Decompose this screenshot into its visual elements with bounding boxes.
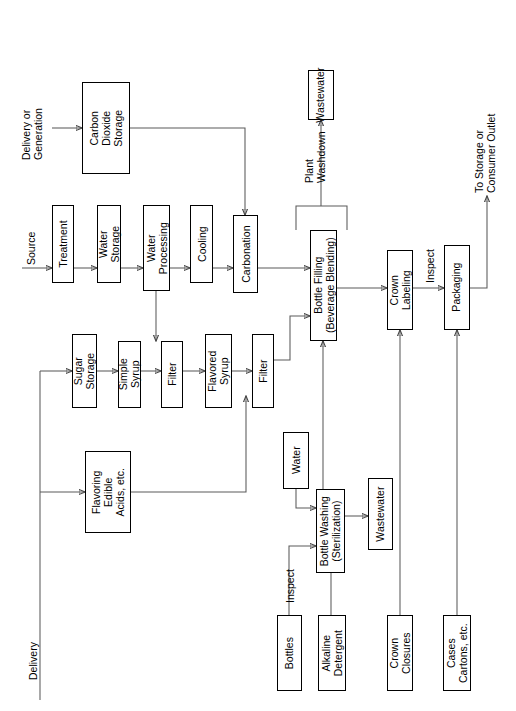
node-alkaline-detergent[interactable]: AlkalineDetergent (318, 615, 346, 691)
node-carbon-dioxide-storage[interactable]: CarbonDioxideStorage (82, 82, 130, 174)
node-label: WaterStorage (97, 226, 121, 263)
node-wastewater-bottle-washing[interactable]: Wastewater (368, 478, 393, 550)
node-label: Treatment (57, 220, 69, 267)
label-plant-washdown: PlantWashdown (303, 131, 327, 183)
node-packaging[interactable]: Packaging (444, 245, 470, 330)
node-bottle-washing[interactable]: Bottle Washing(Sterilization) (316, 489, 345, 573)
node-label: WaterProcessing (144, 222, 168, 274)
node-label: CarbonDioxideStorage (88, 110, 125, 147)
node-label: FlavoringEdibleAcids, etc. (90, 468, 127, 516)
node-label: Filter (166, 363, 178, 386)
node-sugar-storage[interactable]: SugarStorage (72, 334, 97, 408)
node-label: CasesCartons, etc. (445, 623, 469, 683)
node-cooling[interactable]: Cooling (190, 205, 213, 283)
node-water-processing[interactable]: WaterProcessing (143, 205, 170, 291)
node-label: Filter (257, 359, 269, 382)
node-label: CrownClosures (388, 632, 412, 673)
node-label: Carbonation (239, 225, 251, 282)
node-water-storage[interactable]: WaterStorage (97, 205, 121, 283)
node-label: Wastewater (315, 67, 327, 122)
label-source: Source (25, 232, 37, 265)
label-inspect-bottles: Inspect (284, 569, 296, 603)
label-to-storage-or-consumer-outlet: To Storage orConsumer Outlet (473, 114, 497, 193)
node-cases-cartons[interactable]: CasesCartons, etc. (443, 615, 471, 691)
node-simple-syrup[interactable]: SimpleSyrup (118, 341, 141, 408)
node-label: Packaging (451, 263, 463, 312)
node-treatment[interactable]: Treatment (52, 205, 74, 283)
node-wastewater-washdown[interactable]: Wastewater (308, 70, 334, 120)
node-water-for-washing[interactable]: Water (283, 432, 309, 489)
flowchart-canvas: CarbonDioxideStorage Treatment WaterStor… (0, 0, 516, 711)
node-label: FlavoredSyrup (206, 351, 230, 392)
node-label: Bottle Washing(Sterilization) (318, 496, 342, 566)
label-inspect-packaging: Inspect (424, 249, 436, 283)
node-bottle-filling[interactable]: Bottle Filling(Beverage Blending) (310, 230, 337, 341)
node-label: AlkalineDetergent (320, 630, 344, 676)
node-label: Bottles (283, 637, 295, 669)
node-label: CrownLabeling (388, 270, 412, 310)
node-filter-2[interactable]: Filter (252, 334, 274, 408)
node-bottles[interactable]: Bottles (277, 615, 302, 691)
node-label: SugarStorage (72, 353, 96, 390)
label-delivery: Delivery (27, 642, 39, 680)
label-delivery-or-generation: Delivery orGeneration (20, 108, 44, 160)
node-label: SimpleSyrup (117, 358, 141, 390)
node-label: Water (290, 447, 302, 475)
node-filter-1[interactable]: Filter (161, 341, 183, 408)
node-crown-closures[interactable]: CrownClosures (387, 615, 413, 691)
node-flavoring-edible-acids[interactable]: FlavoringEdibleAcids, etc. (85, 451, 131, 533)
node-label: Cooling (195, 226, 207, 262)
node-flavored-syrup[interactable]: FlavoredSyrup (205, 334, 232, 408)
node-crown-labeling[interactable]: CrownLabeling (387, 250, 413, 330)
node-carbonation[interactable]: Carbonation (233, 215, 258, 293)
node-label: Wastewater (374, 486, 386, 541)
node-label: Bottle Filling(Beverage Blending) (311, 238, 335, 334)
